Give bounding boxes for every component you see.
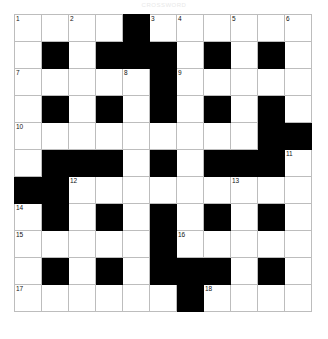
- crossword-block-cell: [150, 258, 177, 285]
- crossword-cell[interactable]: [285, 42, 312, 69]
- crossword-cell[interactable]: [177, 96, 204, 123]
- crossword-cell[interactable]: [177, 177, 204, 204]
- crossword-cell[interactable]: [204, 123, 231, 150]
- crossword-cell[interactable]: 3: [150, 15, 177, 42]
- crossword-cell[interactable]: [231, 231, 258, 258]
- crossword-block-cell: [258, 204, 285, 231]
- crossword-block-cell: [96, 42, 123, 69]
- crossword-cell[interactable]: [123, 204, 150, 231]
- crossword-cell[interactable]: [285, 177, 312, 204]
- crossword-cell[interactable]: 8: [123, 69, 150, 96]
- cell-number: 14: [16, 204, 23, 212]
- crossword-cell[interactable]: 12: [69, 177, 96, 204]
- crossword-cell[interactable]: [231, 96, 258, 123]
- crossword-cell[interactable]: [231, 42, 258, 69]
- crossword-cell[interactable]: [42, 231, 69, 258]
- crossword-cell[interactable]: [123, 258, 150, 285]
- crossword-cell[interactable]: 1: [15, 15, 42, 42]
- crossword-cell[interactable]: [231, 258, 258, 285]
- crossword-cell[interactable]: [258, 177, 285, 204]
- crossword-cell[interactable]: [69, 204, 96, 231]
- crossword-cell[interactable]: 9: [177, 69, 204, 96]
- crossword-cell[interactable]: [177, 204, 204, 231]
- crossword-cell[interactable]: [15, 258, 42, 285]
- crossword-cell[interactable]: [96, 15, 123, 42]
- crossword-cell[interactable]: [150, 285, 177, 312]
- crossword-cell[interactable]: [285, 231, 312, 258]
- crossword-cell[interactable]: [204, 177, 231, 204]
- crossword-cell[interactable]: 10: [15, 123, 42, 150]
- cell-number: 1: [16, 15, 19, 23]
- crossword-row: 789: [15, 69, 312, 96]
- crossword-row: 10: [15, 123, 312, 150]
- crossword-cell[interactable]: [96, 123, 123, 150]
- crossword-row: 1516: [15, 231, 312, 258]
- crossword-cell[interactable]: 6: [285, 15, 312, 42]
- crossword-cell[interactable]: [69, 258, 96, 285]
- crossword-cell[interactable]: [231, 69, 258, 96]
- crossword-cell[interactable]: 5: [231, 15, 258, 42]
- crossword-cell[interactable]: [258, 69, 285, 96]
- crossword-cell[interactable]: [123, 231, 150, 258]
- crossword-cell[interactable]: [42, 15, 69, 42]
- crossword-cell[interactable]: [177, 42, 204, 69]
- crossword-cell[interactable]: [42, 69, 69, 96]
- crossword-cell[interactable]: [123, 285, 150, 312]
- crossword-cell[interactable]: [123, 123, 150, 150]
- crossword-cell[interactable]: [69, 96, 96, 123]
- crossword-cell[interactable]: [204, 231, 231, 258]
- crossword-cell[interactable]: [285, 96, 312, 123]
- crossword-cell[interactable]: [204, 69, 231, 96]
- crossword-cell[interactable]: 2: [69, 15, 96, 42]
- crossword-cell[interactable]: [15, 42, 42, 69]
- crossword-cell[interactable]: [150, 177, 177, 204]
- crossword-cell[interactable]: 18: [204, 285, 231, 312]
- crossword-cell[interactable]: [231, 204, 258, 231]
- crossword-cell[interactable]: [123, 150, 150, 177]
- crossword-block-cell: [204, 204, 231, 231]
- crossword-cell[interactable]: [258, 231, 285, 258]
- crossword-cell[interactable]: [96, 69, 123, 96]
- crossword-cell[interactable]: [258, 285, 285, 312]
- crossword-cell[interactable]: [285, 69, 312, 96]
- crossword-cell[interactable]: [231, 285, 258, 312]
- crossword-cell[interactable]: [69, 231, 96, 258]
- crossword-cell[interactable]: [42, 285, 69, 312]
- crossword-cell[interactable]: [96, 231, 123, 258]
- crossword-cell[interactable]: 13: [231, 177, 258, 204]
- crossword-cell[interactable]: 17: [15, 285, 42, 312]
- crossword-cell[interactable]: [96, 177, 123, 204]
- crossword-cell[interactable]: [123, 96, 150, 123]
- crossword-cell[interactable]: [177, 150, 204, 177]
- crossword-cell[interactable]: [69, 42, 96, 69]
- crossword-cell[interactable]: [285, 204, 312, 231]
- crossword-cell[interactable]: 7: [15, 69, 42, 96]
- crossword-cell[interactable]: [123, 177, 150, 204]
- crossword-cell[interactable]: 14: [15, 204, 42, 231]
- crossword-cell[interactable]: [96, 285, 123, 312]
- crossword-cell[interactable]: [204, 15, 231, 42]
- crossword-cell[interactable]: [69, 123, 96, 150]
- crossword-cell[interactable]: 16: [177, 231, 204, 258]
- crossword-cell[interactable]: [15, 96, 42, 123]
- crossword-block-cell: [204, 96, 231, 123]
- crossword-cell[interactable]: 4: [177, 15, 204, 42]
- crossword-block-cell: [150, 231, 177, 258]
- crossword-cell[interactable]: [177, 123, 204, 150]
- crossword-block-cell: [96, 204, 123, 231]
- crossword-cell[interactable]: [15, 150, 42, 177]
- crossword-row: 11: [15, 150, 312, 177]
- crossword-cell[interactable]: [69, 285, 96, 312]
- crossword-cell[interactable]: [231, 123, 258, 150]
- crossword-cell[interactable]: 15: [15, 231, 42, 258]
- cell-number: 15: [16, 231, 23, 239]
- cell-number: 8: [124, 69, 127, 77]
- crossword-cell[interactable]: [258, 15, 285, 42]
- crossword-cell[interactable]: [42, 123, 69, 150]
- crossword-cell[interactable]: [69, 69, 96, 96]
- crossword-cell[interactable]: 11: [285, 150, 312, 177]
- crossword-cell[interactable]: [150, 123, 177, 150]
- crossword-cell[interactable]: [285, 258, 312, 285]
- crossword-cell[interactable]: [285, 285, 312, 312]
- crossword-block-cell: [42, 204, 69, 231]
